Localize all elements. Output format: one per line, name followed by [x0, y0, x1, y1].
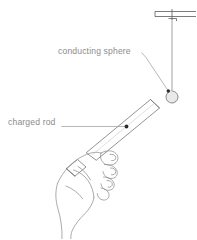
- support-bar-group: [155, 9, 196, 21]
- palm-contour: [71, 198, 94, 240]
- index-fingernail: [110, 154, 116, 160]
- rod-far-end-cap: [151, 100, 160, 109]
- wrist-back-edge: [56, 184, 62, 240]
- thumb-outer: [74, 170, 95, 198]
- hand: [56, 151, 118, 239]
- conducting-sphere-label: conducting sphere: [58, 46, 131, 56]
- conducting-sphere: [166, 91, 178, 103]
- charged-rod-leader-dot: [125, 125, 129, 129]
- little-finger: [97, 188, 109, 200]
- conducting-sphere-label-group: conducting sphere: [58, 46, 170, 93]
- conducting-sphere-leader-line: [142, 53, 169, 91]
- rod-inner-highlight: [92, 103, 155, 155]
- charged-rod-label-group: charged rod: [8, 117, 128, 128]
- rod-tip-edge: [67, 169, 76, 177]
- conducting-sphere-leader-dot: [167, 89, 170, 92]
- rod-near-tip: [67, 160, 87, 177]
- rod-body: [87, 100, 160, 161]
- palm-crease: [66, 186, 83, 199]
- charged-rod-label: charged rod: [8, 117, 56, 127]
- middle-finger: [103, 164, 117, 178]
- hand-back-contour: [58, 152, 102, 183]
- middle-fingernail: [111, 168, 116, 175]
- ring-fingernail: [107, 180, 112, 187]
- physics-diagram: conducting sphere charged rod: [0, 0, 197, 239]
